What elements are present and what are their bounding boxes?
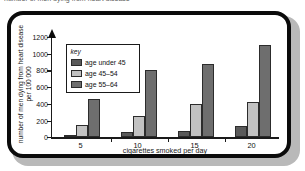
bar-20-series-1 [247,102,259,137]
bar-10-series-1 [133,116,145,137]
y-tick-mark [47,104,51,105]
legend-item-label: age 55–64 [85,81,118,89]
bar-15-series-0 [178,131,190,137]
y-tick-label: 800 [26,67,48,74]
y-tick-mark [47,121,51,122]
y-axis-tick-labels: 020040060080010001200 [24,15,48,154]
y-tick-label: 400 [26,100,48,107]
y-tick-label: 1000 [26,50,48,57]
legend-swatch-icon [71,70,82,77]
legend-box: key age under 45age 45–54age 55–64 [66,44,140,93]
y-tick-mark [47,87,51,88]
y-tick-mark [47,70,51,71]
legend-item-label: age 45–54 [85,70,118,78]
x-tick-mark [111,138,112,142]
bar-20-series-2 [259,45,271,137]
y-tick-label: 600 [26,84,48,91]
bar-10-series-0 [121,132,133,137]
x-tick-mark [225,138,226,142]
top-caption-text: number of men dying from heart disease [4,0,244,4]
legend-rows: age under 45age 45–54age 55–64 [71,57,136,90]
y-tick-label: 1200 [26,34,48,41]
chart-screenshot: number of men dying from heart disease n… [0,0,305,171]
bar-5-series-0 [64,135,76,138]
plot-area: number of men dying from heart disease p… [11,15,287,154]
legend-swatch-icon [71,59,82,66]
x-tick-mark [168,138,169,142]
chart-panel: number of men dying from heart disease p… [7,11,291,158]
y-tick-mark [47,37,51,38]
legend-item-label: age under 45 [85,59,126,67]
legend-title-text: key [71,47,136,56]
bar-5-series-1 [76,125,88,138]
bar-15-series-2 [202,64,214,138]
legend-item-2: age 55–64 [71,79,136,90]
bar-5-series-2 [88,99,100,137]
bar-10-series-2 [145,70,157,137]
y-tick-mark [47,137,51,138]
bar-20-series-0 [235,126,247,137]
x-axis-title-text: cigarettes smoked per day [51,146,279,155]
bar-15-series-1 [190,104,202,137]
legend-item-1: age 45–54 [71,68,136,79]
y-tick-mark [47,54,51,55]
legend-swatch-icon [71,81,82,88]
legend-item-0: age under 45 [71,57,136,68]
y-tick-label: 0 [26,134,48,141]
y-tick-label: 200 [26,117,48,124]
